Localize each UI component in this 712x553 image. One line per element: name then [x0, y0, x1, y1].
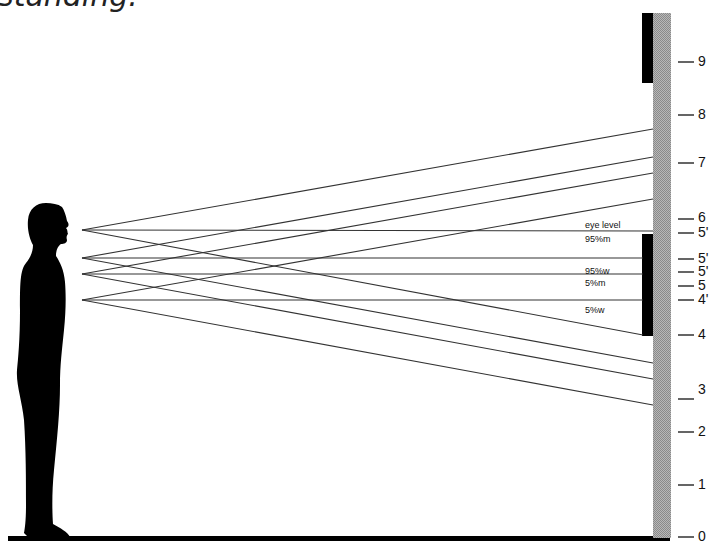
label-95-percent-women: 95%w: [585, 266, 610, 276]
tick-label-7: 7: [698, 155, 706, 169]
tick-label-1: 1: [698, 477, 706, 491]
human-silhouette: [17, 203, 70, 537]
tick-label-8: 8: [698, 107, 706, 121]
tick-label-4: 4: [698, 327, 706, 341]
upper-display-panel: [642, 13, 653, 83]
label-5-percent-women: 5%w: [585, 305, 605, 315]
label-95-percent-men: 95%m: [585, 234, 611, 244]
label-eye-level: eye level: [585, 220, 621, 230]
tick-label-4prime: 4': [698, 292, 708, 306]
label-5-percent-men: 5%m: [585, 278, 606, 288]
tick-label-5prime-a: 5': [698, 225, 708, 239]
height-ticks: [678, 62, 694, 537]
tick-label-5: 5: [698, 278, 706, 292]
middle-display-panel: [642, 234, 653, 336]
tick-label-5prime-c: 5': [698, 264, 708, 278]
wall: [653, 13, 671, 538]
tick-label-0: 0: [698, 529, 706, 543]
sight-lines: [82, 129, 653, 405]
tick-label-3: 3: [698, 382, 706, 396]
sightline-diagram: [0, 0, 712, 553]
floor-line: [8, 536, 670, 541]
tick-label-6: 6: [698, 210, 706, 224]
tick-label-2: 2: [698, 424, 706, 438]
tick-label-9: 9: [698, 54, 706, 68]
